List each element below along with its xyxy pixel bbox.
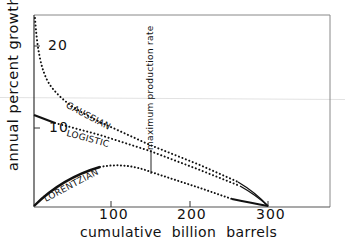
x-tick-label-300: 300 <box>256 206 286 222</box>
y-axis-label: annual percent growth <box>5 41 21 171</box>
max-production-label: maximum production rate <box>145 25 155 150</box>
x-axis-label: cumulative billion barrels <box>80 224 277 240</box>
x-tick-label-200: 200 <box>177 206 207 222</box>
y-tick-label-20: 20 <box>48 37 68 53</box>
x-tick-label-100: 100 <box>99 206 129 222</box>
